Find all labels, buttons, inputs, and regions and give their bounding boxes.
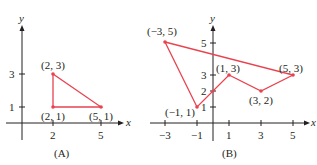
point-label: (3, 2) bbox=[249, 94, 273, 107]
point bbox=[51, 72, 55, 76]
x-axis-arrow-icon bbox=[304, 121, 310, 126]
panel-caption: (A) bbox=[54, 147, 70, 160]
point-label: (5, 1) bbox=[89, 110, 113, 123]
y-tick-label: 3 bbox=[201, 69, 207, 81]
point bbox=[51, 105, 55, 109]
y-axis-label: y bbox=[209, 12, 215, 24]
x-tick-label: −3 bbox=[159, 129, 171, 141]
x-tick-label: 5 bbox=[290, 129, 296, 141]
y-tick-label: 2 bbox=[201, 85, 207, 97]
x-axis-label: x bbox=[125, 116, 131, 128]
x-tick-label: 1 bbox=[226, 129, 232, 141]
point bbox=[195, 105, 199, 109]
x-axis-arrow-icon bbox=[118, 121, 124, 126]
point-label: (2, 3) bbox=[41, 59, 65, 72]
panel-caption: (B) bbox=[222, 147, 237, 160]
point bbox=[211, 89, 214, 92]
point bbox=[259, 89, 263, 93]
point-label: (−1, 1) bbox=[165, 106, 195, 119]
point-label: (1, 3) bbox=[216, 62, 240, 75]
y-axis-arrow-icon bbox=[20, 25, 25, 31]
x-tick-label: 5 bbox=[98, 129, 104, 141]
panel-b: x y −3 −1 1 3 5 1 2 3 5 (−3, 5) (1, 3) (… bbox=[147, 12, 316, 160]
point-label: (−3, 5) bbox=[147, 25, 177, 38]
panel-a: x y 2 5 1 3 (2, 3) (2, 1) (5, 1) (A) bbox=[6, 12, 131, 160]
x-tick-label: 2 bbox=[50, 129, 56, 141]
y-axis-label: y bbox=[18, 12, 24, 24]
x-tick-label: −1 bbox=[191, 129, 203, 141]
figure: x y 2 5 1 3 (2, 3) (2, 1) (5, 1) (A) x y… bbox=[0, 0, 317, 165]
y-tick-label: 1 bbox=[9, 101, 15, 113]
y-tick-label: 5 bbox=[201, 37, 207, 49]
point bbox=[99, 105, 103, 109]
triangle-shape bbox=[53, 74, 101, 107]
point-label: (2, 1) bbox=[41, 110, 65, 123]
x-axis-label: x bbox=[310, 116, 316, 128]
point bbox=[163, 40, 167, 44]
y-tick-label: 3 bbox=[9, 68, 15, 80]
point-label: (5, 3) bbox=[279, 62, 303, 75]
x-tick-label: 3 bbox=[258, 129, 264, 141]
y-axis-arrow-icon bbox=[211, 25, 216, 31]
